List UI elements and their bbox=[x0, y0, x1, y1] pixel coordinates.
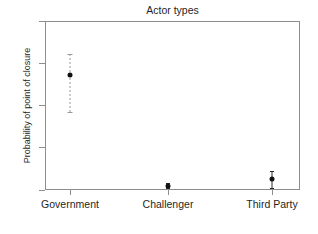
y-tick-mark-1 bbox=[39, 147, 45, 148]
y-tick-mark-4 bbox=[39, 21, 45, 22]
x-tick-mark-third-party bbox=[272, 190, 273, 195]
x-tick-mark-challenger bbox=[168, 190, 169, 195]
errorbar-cap-low-government bbox=[68, 112, 73, 113]
errorbar-government bbox=[70, 54, 71, 112]
errorbar-cap-low-third-party bbox=[270, 188, 274, 189]
errorbar-cap-high-government bbox=[68, 54, 73, 55]
y-tick-mark-2 bbox=[39, 105, 45, 106]
x-tick-label-challenger: Challenger bbox=[143, 198, 194, 211]
y-tick-mark-0 bbox=[39, 190, 45, 191]
chart-figure: Actor types Probability of point of clos… bbox=[0, 0, 318, 234]
y-tick-label-wrap-0: 0 bbox=[0, 185, 37, 195]
plot-area bbox=[45, 21, 300, 190]
y-tick-label-wrap-3: 0.06 bbox=[0, 58, 37, 68]
y-tick-label-wrap-1: 0.02 bbox=[0, 142, 37, 152]
y-tick-mark-3 bbox=[39, 63, 45, 64]
chart-title: Actor types bbox=[45, 4, 300, 17]
data-point-third-party bbox=[270, 177, 275, 182]
y-tick-label-wrap-4: 0.08 bbox=[0, 16, 37, 26]
data-point-government bbox=[68, 73, 73, 78]
errorbar-cap-high-third-party bbox=[270, 171, 274, 172]
x-tick-label-third-party: Third Party bbox=[246, 198, 297, 211]
data-point-challenger bbox=[166, 184, 171, 189]
x-tick-mark-government bbox=[70, 190, 71, 195]
x-tick-label-government: Government bbox=[41, 198, 99, 211]
y-tick-label-wrap-2: 0.04 bbox=[0, 100, 37, 110]
